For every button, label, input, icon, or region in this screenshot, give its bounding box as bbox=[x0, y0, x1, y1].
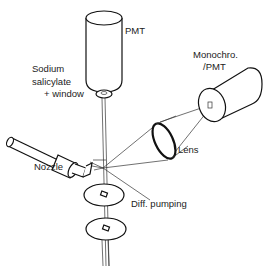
monochro-label-line1: Monochro. bbox=[193, 49, 238, 60]
monochro-label-line2: /PMT bbox=[203, 61, 226, 72]
sodium-salicylate-window bbox=[96, 90, 112, 98]
lens bbox=[148, 116, 188, 162]
nozzle-label: Nozzle bbox=[34, 161, 63, 172]
skimmer-disc-1 bbox=[84, 184, 124, 206]
sodium-label-line3: + window bbox=[44, 88, 84, 99]
experimental-setup-diagram: PMT Sodium salicylate + window Monochro.… bbox=[0, 0, 279, 266]
lens-label: Lens bbox=[178, 144, 199, 155]
sodium-label-line2: salicylate bbox=[32, 76, 71, 87]
diff-pumping-label: Diff. pumping bbox=[131, 198, 187, 209]
pmt-label: PMT bbox=[125, 25, 145, 36]
sodium-label-line1: Sodium bbox=[32, 63, 64, 74]
skimmer-disc-2 bbox=[86, 218, 126, 240]
pmt-cylinder bbox=[86, 11, 122, 92]
nozzle bbox=[5, 136, 92, 179]
monochromator-pmt bbox=[194, 68, 262, 126]
